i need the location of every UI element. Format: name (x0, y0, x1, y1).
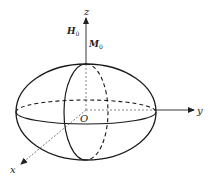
y-axis-label: y (196, 105, 203, 116)
ellipsoid-outline (16, 64, 156, 160)
field-label: H0 (66, 26, 80, 37)
meridian-back (86, 64, 108, 160)
magnetization-label: M0 (88, 39, 103, 50)
z-axis-label: z (83, 6, 90, 17)
meridian-front (64, 64, 86, 160)
ellipsoid-diagram: z y x O H0 M0 (0, 0, 214, 182)
x-axis-label: x (10, 164, 16, 175)
origin-label: O (80, 113, 88, 124)
